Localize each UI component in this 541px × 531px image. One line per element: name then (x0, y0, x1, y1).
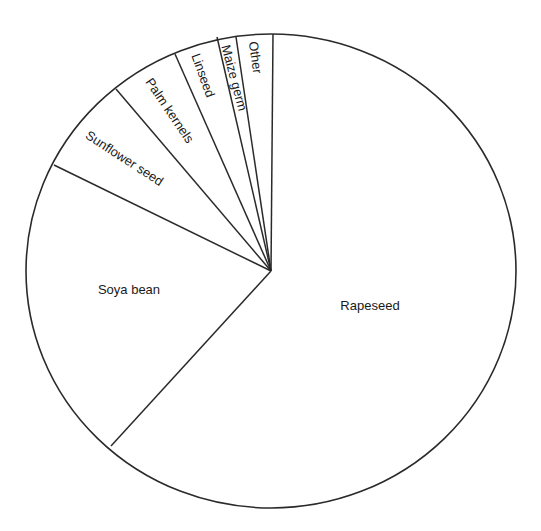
pie-chart: Rapeseed Soya bean Sunflower seed Palm k… (0, 0, 541, 531)
label-soya-bean: Soya bean (98, 282, 160, 297)
label-rapeseed: Rapeseed (340, 298, 399, 313)
